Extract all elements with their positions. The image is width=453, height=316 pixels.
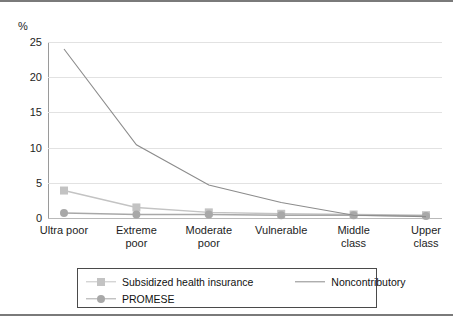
y-tick-label-10: 10 [14, 142, 42, 153]
y-tick-label-25: 25 [14, 37, 42, 48]
legend-item-subsidized-health-insurance[interactable]: Subsidized health insurance [86, 276, 253, 288]
legend-swatch-circle-icon [86, 293, 116, 305]
legend-item-promese[interactable]: PROMESE [86, 293, 175, 305]
y-tick-label-20: 20 [14, 72, 42, 83]
data-point-promese-2 [205, 210, 213, 218]
legend-label-promese: PROMESE [122, 293, 175, 305]
legend-label-noncontributory: Noncontributory [331, 276, 405, 288]
data-point-promese-1 [132, 210, 140, 218]
gridline-0 [48, 218, 442, 219]
y-axis-tick-labels: 0510152025 [14, 42, 42, 218]
chart-figure: % 0510152025 Ultra poorExtremepoorModera… [0, 0, 453, 316]
data-point-promese-0 [60, 209, 68, 217]
x-tick-label-extreme-poor: Extremepoor [97, 224, 175, 249]
legend-item-noncontributory[interactable]: Noncontributory [295, 276, 405, 288]
x-tick-label-moderate-poor: Moderatepoor [170, 224, 248, 249]
x-tick-label-ultra-poor: Ultra poor [25, 224, 103, 237]
data-point-promese-3 [277, 211, 285, 219]
x-tick-label-vulnerable: Vulnerable [242, 224, 320, 237]
legend-row-1: Subsidized health insurance Noncontribut… [86, 273, 368, 290]
y-tick-label-0: 0 [14, 213, 42, 224]
plot-area [48, 42, 442, 218]
data-point-promese-5 [422, 212, 430, 220]
series-layer [48, 42, 442, 218]
x-tick-label-middle-class: Middleclass [315, 224, 393, 249]
x-tick-label-upper-class: Upperclass [387, 224, 453, 249]
x-axis-tick-labels: Ultra poorExtremepoorModeratepoorVulnera… [48, 224, 442, 260]
data-point-subsidized-health-insurance-0 [60, 187, 68, 195]
legend-label-subsidized: Subsidized health insurance [122, 276, 253, 288]
data-point-subsidized-health-insurance-1 [132, 203, 140, 211]
y-axis-unit-label: % [18, 20, 28, 32]
legend-swatch-square-icon [86, 276, 116, 288]
y-tick-label-15: 15 [14, 107, 42, 118]
legend-row-2: PROMESE [86, 290, 368, 307]
y-tick-label-5: 5 [14, 177, 42, 188]
series-line-noncontributory [64, 49, 426, 217]
chart-legend: Subsidized health insurance Noncontribut… [77, 268, 377, 308]
legend-swatch-line-icon [295, 276, 325, 288]
